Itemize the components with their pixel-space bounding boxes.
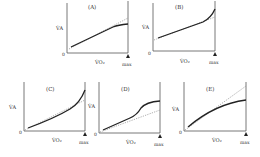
x-axis-label: V̇O₂ xyxy=(94,59,105,65)
max-label: max xyxy=(154,142,164,147)
max-label: max xyxy=(122,62,132,67)
data-curve xyxy=(188,100,246,127)
panel-title: (A) xyxy=(88,4,96,10)
panel-d: (D) V̇A 0 V̇O₂ max xyxy=(87,82,164,147)
y-axis-label: V̇A xyxy=(171,106,180,112)
panel-e: (E) V̇A 0 V̇O₂ max xyxy=(171,82,250,145)
x-axis-label: V̇O₂ xyxy=(179,58,190,64)
data-curve xyxy=(71,24,128,47)
y-axis-label: V̇A xyxy=(8,104,17,110)
max-marker-icon xyxy=(158,134,162,138)
max-label: max xyxy=(240,140,250,145)
data-curve xyxy=(158,9,215,38)
x-axis-label: V̇O₂ xyxy=(211,137,222,143)
panel-title: (C) xyxy=(46,86,55,92)
max-label: max xyxy=(209,60,219,65)
max-marker-icon xyxy=(213,52,217,56)
panel-a: (A) V̇A 0 V̇O₂ max xyxy=(55,1,132,67)
max-marker-icon xyxy=(126,54,130,58)
origin-label: 0 xyxy=(94,132,97,137)
origin-label: 0 xyxy=(19,130,22,135)
max-marker-icon xyxy=(83,132,87,136)
y-axis-label: V̇A xyxy=(55,25,64,31)
panel-title: (D) xyxy=(121,86,130,92)
origin-label: 0 xyxy=(148,51,151,56)
x-axis-label: V̇O₂ xyxy=(51,137,62,143)
origin-label: 0 xyxy=(62,52,65,57)
panel-title: (E) xyxy=(206,86,214,92)
panel-b: (B) V̇A 0 V̇O₂ max xyxy=(141,1,219,65)
figure-canvas: (A) V̇A 0 V̇O₂ max (B) V̇A 0 V̇O₂ max (C… xyxy=(0,0,260,157)
data-curve xyxy=(103,101,160,130)
reference-line xyxy=(185,86,246,130)
x-axis-label: V̇O₂ xyxy=(125,139,136,145)
data-curve xyxy=(28,90,85,128)
panel-c: (C) V̇A 0 V̇O₂ max xyxy=(8,82,89,145)
y-axis-label: V̇A xyxy=(87,103,96,109)
reference-line xyxy=(100,110,160,132)
y-axis-label: V̇A xyxy=(141,24,150,30)
max-label: max xyxy=(79,140,89,145)
max-marker-icon xyxy=(244,132,248,136)
panel-title: (B) xyxy=(175,4,183,10)
origin-label: 0 xyxy=(179,130,182,135)
